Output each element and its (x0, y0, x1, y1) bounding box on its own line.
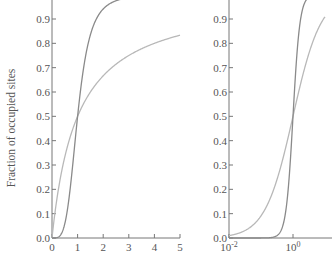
x-tick-label: 5 (177, 241, 183, 253)
y-tick-label: 0.8 (36, 37, 50, 49)
y-tick-label: 0.4 (213, 135, 227, 147)
series-line-hill-n4 (229, 0, 325, 238)
x-tick-label: 10-2 (220, 240, 238, 253)
x-tick-label: 3 (126, 241, 132, 253)
series-line-hill-n1 (52, 35, 180, 238)
y-tick-label: 0.3 (36, 159, 50, 171)
x-tick-label: 2 (100, 241, 106, 253)
y-tick-label: 0.5 (213, 110, 227, 122)
panel-right-log: 0.00.10.20.30.40.50.60.70.80.910-2100 (213, 0, 332, 253)
x-tick-label: 0 (49, 241, 55, 253)
chart-figure: Fraction of occupied sites 0.00.10.20.30… (0, 0, 332, 253)
y-tick-label: 0.5 (36, 110, 50, 122)
y-tick-label: 0.9 (213, 13, 227, 25)
series-line-hill-n1 (229, 17, 325, 236)
y-tick-label: 0.3 (213, 159, 227, 171)
y-tick-label: 0.7 (213, 62, 227, 74)
y-tick-label: 0.9 (36, 13, 50, 25)
y-tick-label: 0.6 (213, 86, 227, 98)
x-tick-label: 1 (75, 241, 81, 253)
panel-left-linear: 0.00.10.20.30.40.50.60.70.80.9012345 (36, 0, 183, 253)
y-tick-label: 0.7 (36, 62, 50, 74)
y-tick-label: 0.1 (36, 208, 50, 220)
y-tick-label: 0.6 (36, 86, 50, 98)
y-tick-label: 0.8 (213, 37, 227, 49)
x-tick-label: 100 (286, 240, 301, 253)
y-tick-label: 0.2 (213, 183, 227, 195)
y-axis-label: Fraction of occupied sites (5, 68, 18, 187)
y-tick-label: 0.4 (36, 135, 50, 147)
series-line-hill-n4 (52, 0, 180, 238)
y-tick-label: 0.1 (213, 208, 227, 220)
x-tick-label: 4 (152, 241, 158, 253)
y-tick-label: 0.2 (36, 183, 50, 195)
